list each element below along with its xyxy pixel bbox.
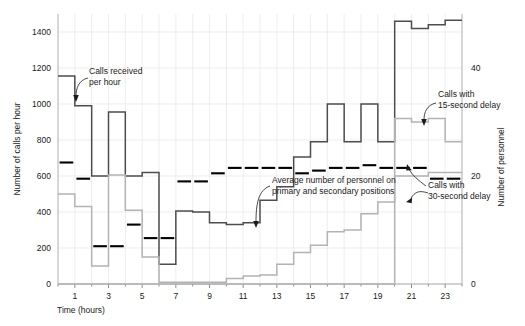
calls-and-personnel-chart: 1357911131517192123 02004006008001000120…: [0, 0, 525, 326]
x-tick-label: 21: [407, 291, 417, 301]
y-axis-title: Number of calls per hour: [12, 102, 22, 195]
x-tick-label: 13: [272, 291, 282, 301]
y-tick-label: 1000: [32, 99, 51, 109]
x-axis-title: Time (hours): [57, 305, 105, 315]
y-tick-label: 0: [46, 279, 51, 289]
x-tick-label: 17: [339, 291, 349, 301]
x-tick-label: 15: [306, 291, 316, 301]
chart-figure: 1357911131517192123 02004006008001000120…: [0, 0, 525, 326]
annotation-calls-15-line2: 15-second delay: [438, 100, 501, 110]
y-tick-label: 800: [37, 135, 51, 145]
x-tick-label: 23: [440, 291, 450, 301]
annotation-average-personnel-line2: primary and secondary positions: [272, 186, 394, 196]
annotation-calls-received-line2: per hour: [89, 77, 121, 87]
annotation-calls-15-line1: Calls with: [438, 89, 475, 99]
x-tick-label: 3: [106, 291, 111, 301]
annotation-calls-received-line1: Calls received: [89, 66, 143, 76]
x-tick-label: 5: [140, 291, 145, 301]
y-tick-label: 400: [37, 207, 51, 217]
y-tick-label: 1200: [32, 63, 51, 73]
x-tick-label: 19: [373, 291, 383, 301]
y2-tick-label: 0: [471, 279, 476, 289]
annotation-average-personnel-line1: Average number of personnel on: [272, 175, 396, 185]
y2-tick-label: 20: [471, 171, 481, 181]
y2-tick-label: 40: [471, 63, 481, 73]
x-tick-label: 1: [72, 291, 77, 301]
x-tick-label: 11: [239, 291, 248, 301]
annotation-calls-30-line2: 30-second delay: [428, 191, 491, 201]
x-tick-label: 7: [173, 291, 178, 301]
x-tick-label: 9: [207, 291, 212, 301]
y-tick-label: 200: [37, 243, 51, 253]
chart-background: [0, 0, 525, 326]
y-tick-label: 1400: [32, 27, 51, 37]
y-tick-label: 600: [37, 171, 51, 181]
annotation-calls-30-line1: Calls with: [428, 180, 465, 190]
y2-axis-title: Number of personnel: [496, 127, 506, 206]
